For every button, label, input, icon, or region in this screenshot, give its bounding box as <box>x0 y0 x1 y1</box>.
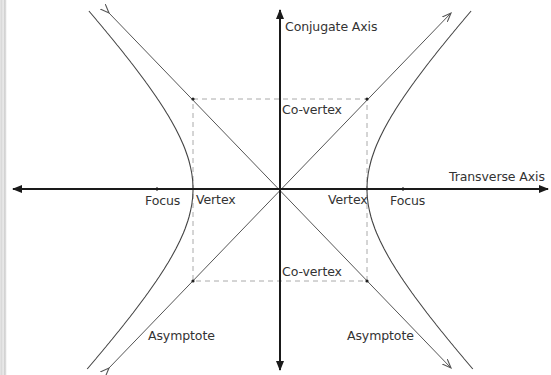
corner-dot <box>365 97 368 100</box>
vertex-left-label: Vertex <box>196 194 236 207</box>
co-vertex-bottom-label: Co-vertex <box>282 266 342 279</box>
hyperbola-diagram <box>0 0 551 375</box>
vertex-right-label: Vertex <box>328 194 368 207</box>
conjugate-axis-label: Conjugate Axis <box>285 21 377 34</box>
co-vertex-top-label: Co-vertex <box>282 104 342 117</box>
asymptote-right-label: Asymptote <box>347 330 414 343</box>
corner-dot <box>365 279 368 282</box>
corner-dot <box>191 97 194 100</box>
focus-left-label: Focus <box>145 195 180 208</box>
asymptote-left-label: Asymptote <box>148 330 215 343</box>
focus-right-label: Focus <box>390 195 425 208</box>
corner-dot <box>191 279 194 282</box>
transverse-axis-label: Transverse Axis <box>449 171 545 184</box>
